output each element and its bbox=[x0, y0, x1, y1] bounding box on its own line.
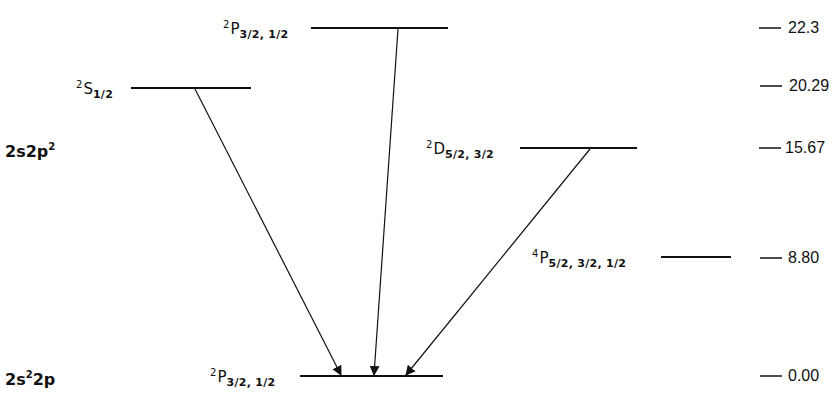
term-j: 5/2, 3/2 bbox=[445, 148, 494, 161]
transition-arrow-2P-upper bbox=[374, 29, 398, 375]
config-superscript: 2 bbox=[26, 369, 33, 380]
config-text: 2s2p bbox=[5, 142, 48, 161]
config-text: 2s bbox=[5, 370, 26, 389]
term-j: 5/2, 3/2, 1/2 bbox=[548, 257, 626, 270]
term-multiplicity: 2 bbox=[76, 79, 82, 90]
term-j: 3/2, 1/2 bbox=[239, 28, 288, 41]
term-label-4P: 4P5/2, 3/2, 1/2 bbox=[532, 249, 626, 269]
scale-label-20.29: 20.29 bbox=[789, 78, 829, 94]
config-superscript: 2 bbox=[48, 141, 55, 152]
config-label-2s22p: 2s22p bbox=[5, 370, 55, 388]
term-label-2P-upper: 2P3/2, 1/2 bbox=[223, 20, 288, 40]
scale-label-15.67: 15.67 bbox=[785, 140, 825, 156]
diagram-lines bbox=[0, 0, 838, 393]
term-label-2P-ground: 2P3/2, 1/2 bbox=[210, 368, 275, 388]
term-multiplicity: 2 bbox=[426, 139, 432, 150]
term-label-2S: 2S1/2 bbox=[76, 80, 113, 100]
term-label-2D: 2D5/2, 3/2 bbox=[426, 140, 494, 160]
config-label-2s2p2: 2s2p2 bbox=[5, 142, 55, 160]
term-multiplicity: 2 bbox=[210, 367, 216, 378]
term-multiplicity: 4 bbox=[532, 248, 538, 259]
term-j: 1/2 bbox=[93, 88, 113, 101]
term-letter: S bbox=[83, 80, 93, 98]
transition-arrow-2S bbox=[195, 89, 341, 375]
energy-level-diagram: 2s2p2 2s22p 2P3/2, 1/2 2S1/2 2D5/2, 3/2 … bbox=[0, 0, 838, 393]
term-letter: D bbox=[433, 140, 445, 158]
term-j: 3/2, 1/2 bbox=[226, 376, 275, 389]
scale-label-0.00: 0.00 bbox=[788, 368, 819, 384]
scale-label-8.80: 8.80 bbox=[788, 250, 819, 266]
term-multiplicity: 2 bbox=[223, 19, 229, 30]
scale-label-22.3: 22.3 bbox=[788, 20, 819, 36]
config-text: 2p bbox=[33, 370, 56, 389]
